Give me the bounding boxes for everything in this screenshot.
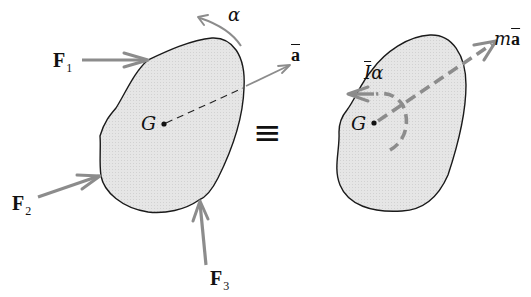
center-of-mass-label-right: G xyxy=(351,114,366,133)
force-arrow-f2 xyxy=(38,175,100,197)
center-of-mass-label-left: G xyxy=(141,114,156,133)
alpha-label: α xyxy=(228,6,240,24)
acceleration-label: a xyxy=(291,46,300,64)
acceleration-arrow xyxy=(246,65,290,86)
equivalence-symbol: ≡ xyxy=(253,112,282,152)
force-label-f2: F2 xyxy=(12,193,31,213)
inertial-force-label: ma xyxy=(494,30,520,48)
force-label-f1: F1 xyxy=(53,50,72,70)
center-of-mass-dot-left xyxy=(161,121,166,126)
force-arrow-f1 xyxy=(82,53,148,67)
inertial-moment-label: Iα xyxy=(364,64,383,82)
center-of-mass-dot-right xyxy=(371,120,376,125)
free-body-diagram: F1 F2 F3 α a G ≡ G Iα ma xyxy=(0,0,531,297)
force-label-f3: F3 xyxy=(210,268,229,288)
force-arrow-f3 xyxy=(193,201,208,265)
left-rigid-body xyxy=(100,38,244,213)
